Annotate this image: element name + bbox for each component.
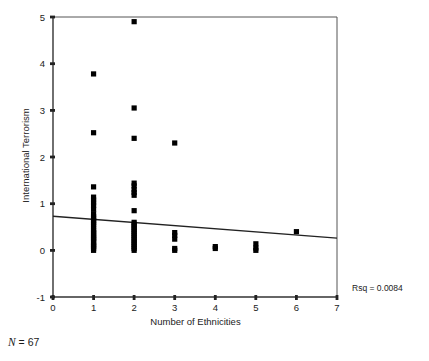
scatter-plot-figure: 5 4 3 2 1 0 -1 0 1 2 3 4 5 6 7 Internati… [0,0,429,361]
x-tick-6 [295,295,298,300]
scatter-point [91,71,96,76]
scatter-point [91,248,96,253]
y-tick-2 [50,156,55,159]
scatter-point [91,197,96,202]
x-tick-0 [52,295,55,300]
x-tick-label-1: 1 [91,302,96,313]
scatter-point [132,193,137,198]
x-tick-label-2: 2 [131,302,136,313]
x-tick-3 [173,295,176,300]
x-axis-tick-labels: 0 1 2 3 4 5 6 7 [50,302,339,313]
x-tick-label-3: 3 [172,302,177,313]
x-tick-2 [133,295,136,300]
scatter-point [253,248,258,253]
x-axis-title: Number of Ethnicities [53,316,338,327]
y-tick-5 [50,16,55,19]
axes-frame [53,17,337,297]
scatter-point [132,208,137,213]
y-tick-label-4: 4 [40,58,45,69]
plot-canvas: 5 4 3 2 1 0 -1 0 1 2 3 4 5 6 7 [0,0,429,361]
x-tick-1 [92,295,95,300]
y-axis-title: International Terrorism [20,86,31,226]
y-tick-label-5: 5 [40,12,45,23]
y-tick-0 [50,249,55,252]
scatter-point [91,236,96,241]
scatter-point [91,184,96,189]
y-tick-label-1: 1 [40,198,45,209]
scatter-point [172,248,177,253]
y-axis-tick-labels: 5 4 3 2 1 0 -1 [37,12,45,303]
scatter-point [132,187,137,192]
y-tick-label-2: 2 [40,152,45,163]
scatter-point [294,229,299,234]
y-tick-label-neg1: -1 [37,292,45,303]
x-tick-label-6: 6 [294,302,299,313]
scatter-point [91,243,96,248]
x-tick-4 [214,295,217,300]
y-tick-label-3: 3 [40,105,45,116]
scatter-point [91,230,96,235]
y-tick-4 [50,62,55,65]
y-tick-label-0: 0 [40,245,45,256]
x-tick-label-4: 4 [213,302,218,313]
sample-size-symbol: N [8,336,16,348]
scatter-markers-group [91,19,299,253]
scatter-point [172,140,177,145]
scatter-point [132,136,137,141]
scatter-point [91,130,96,135]
sample-size-value: 67 [28,336,40,348]
x-tick-label-7: 7 [334,302,339,313]
scatter-point [132,105,137,110]
x-tick-label-5: 5 [253,302,258,313]
y-tick-3 [50,109,55,112]
scatter-point [132,248,137,253]
scatter-point [91,207,96,212]
sample-size-equals: = [16,336,28,348]
scatter-point [132,19,137,24]
rsq-annotation: Rsq = 0.0084 [352,283,403,293]
y-tick-1 [50,202,55,205]
x-tick-7 [336,295,339,300]
scatter-point [172,237,177,242]
sample-size-annotation: N = 67 [8,336,39,348]
scatter-point [213,246,218,251]
scatter-point [132,220,137,225]
x-tick-label-0: 0 [50,302,55,313]
x-tick-5 [254,295,257,300]
